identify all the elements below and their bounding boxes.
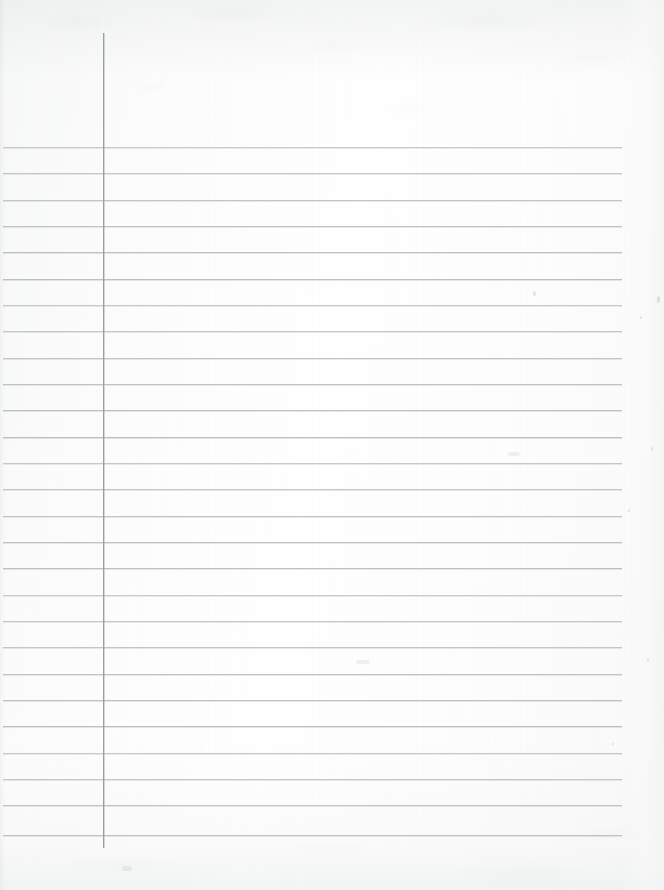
scan-smudge — [508, 452, 520, 456]
scan-speck — [657, 296, 660, 303]
scan-speck — [647, 658, 649, 661]
scan-smudge — [356, 660, 370, 664]
scanned-page — [0, 0, 664, 890]
scan-speck — [651, 447, 653, 451]
scan-smudge — [122, 866, 132, 871]
scan-artifacts-layer — [0, 0, 664, 890]
scan-speck — [533, 291, 536, 296]
scan-speck — [628, 509, 630, 512]
scan-speck — [640, 316, 642, 319]
scan-speck — [612, 743, 614, 745]
